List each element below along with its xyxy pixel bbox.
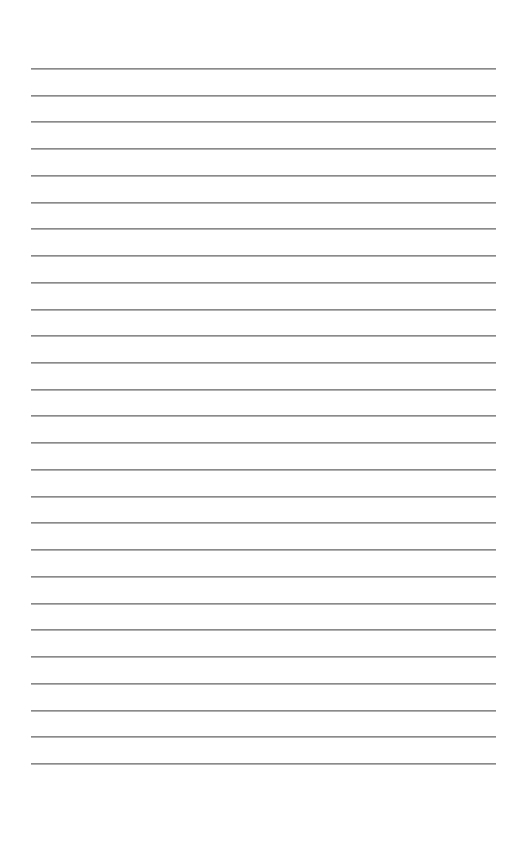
ruled-line [31, 309, 496, 311]
ruled-line [31, 576, 496, 578]
ruled-line [31, 95, 496, 97]
ruled-line [31, 736, 496, 738]
ruled-line [31, 335, 496, 337]
ruled-line [31, 228, 496, 230]
ruled-line [31, 629, 496, 631]
ruled-line [31, 710, 496, 712]
ruled-line [31, 362, 496, 364]
ruled-line [31, 442, 496, 444]
ruled-line [31, 68, 496, 70]
ruled-line [31, 549, 496, 551]
ruled-line [31, 656, 496, 658]
ruled-line [31, 282, 496, 284]
ruled-line [31, 496, 496, 498]
ruled-line [31, 683, 496, 685]
ruled-line [31, 389, 496, 391]
ruled-line [31, 202, 496, 204]
ruled-line [31, 603, 496, 605]
ruled-line [31, 121, 496, 123]
lined-paper-page [0, 0, 512, 849]
ruled-line [31, 175, 496, 177]
ruled-line [31, 522, 496, 524]
ruled-line [31, 415, 496, 417]
ruled-line [31, 148, 496, 150]
ruled-line [31, 469, 496, 471]
ruled-line [31, 763, 496, 765]
ruled-line [31, 255, 496, 257]
